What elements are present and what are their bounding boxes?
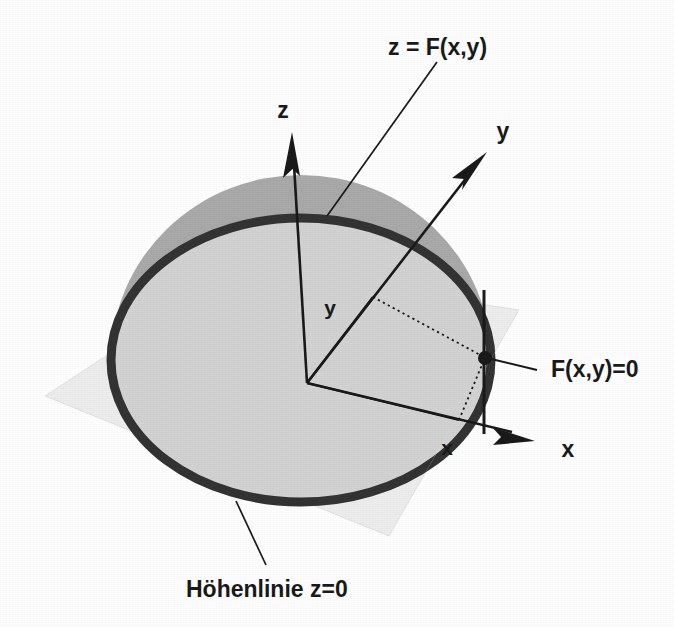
label-axis-x: x bbox=[562, 436, 575, 462]
axis-z-arrowhead bbox=[283, 132, 300, 178]
label-zero-level: F(x,y)=0 bbox=[551, 356, 639, 382]
label-contour-line: Höhenlinie z=0 bbox=[186, 576, 348, 602]
label-coordinate-x: x bbox=[441, 436, 453, 459]
axis-x-arrowhead bbox=[492, 427, 535, 445]
label-axis-z: z bbox=[277, 97, 289, 123]
label-axis-y: y bbox=[497, 118, 510, 144]
leader-contour bbox=[236, 501, 266, 565]
axis-y-arrowhead bbox=[452, 152, 487, 190]
label-coordinate-y: y bbox=[324, 296, 336, 319]
surface-diagram: z = F(x,y) z y x y x F(x,y)=0 Höhenlinie… bbox=[0, 0, 674, 627]
figure-root: z = F(x,y) z y x y x F(x,y)=0 Höhenlinie… bbox=[0, 0, 674, 627]
label-surface-equation: z = F(x,y) bbox=[388, 34, 487, 60]
